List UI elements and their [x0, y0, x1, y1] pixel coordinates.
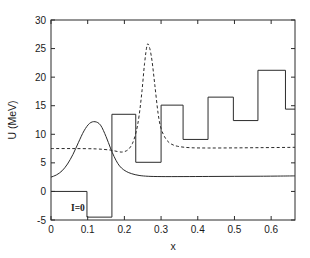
y-tick-label: 10 — [35, 129, 47, 140]
x-tick-label: 0.2 — [117, 224, 131, 235]
axis-tick-labels: 00.10.20.30.40.50.6-5051015202530 — [35, 15, 279, 236]
plot-annotation-label: I=0 — [71, 203, 85, 213]
x-tick-label: 0.3 — [154, 224, 168, 235]
x-tick-label: 0.5 — [228, 224, 242, 235]
x-tick-label: 0.6 — [264, 224, 278, 235]
y-tick-label: -5 — [37, 215, 46, 226]
data-curves — [51, 44, 295, 217]
x-axis-title: x — [170, 240, 176, 252]
series-smooth-potential — [51, 122, 295, 178]
series-step-potential — [51, 70, 295, 217]
x-tick-label: 0 — [48, 224, 54, 235]
y-axis-title: U (MeV) — [6, 100, 18, 139]
y-tick-label: 5 — [40, 157, 46, 168]
y-tick-label: 25 — [35, 43, 47, 54]
chart-svg: 00.10.20.30.40.50.6-5051015202530 x U (M… — [0, 0, 310, 258]
x-tick-label: 0.1 — [81, 224, 95, 235]
y-tick-label: 15 — [35, 100, 47, 111]
x-tick-label: 0.4 — [191, 224, 205, 235]
chart-figure: 00.10.20.30.40.50.6-5051015202530 x U (M… — [0, 0, 310, 258]
y-tick-label: 20 — [35, 72, 47, 83]
y-tick-label: 30 — [35, 15, 47, 26]
y-tick-label: 0 — [40, 186, 46, 197]
